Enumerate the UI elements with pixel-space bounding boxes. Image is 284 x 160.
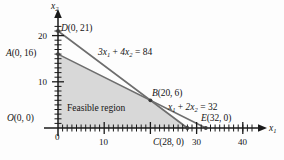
vertex-dot-E [204, 126, 208, 130]
point-label-D: D(0, 21) [61, 24, 92, 34]
vertex-dot-A [56, 52, 60, 56]
x-tick-label-30: 30 [192, 138, 201, 147]
vertex-dot-C [186, 126, 190, 130]
point-label-C: C(28, 0) [153, 138, 184, 148]
point-label-O: O(0, 0) [7, 114, 34, 124]
vertex-dot-B [149, 98, 153, 102]
point-label-E: E(32, 0) [201, 114, 231, 124]
x-tick-label-10: 10 [99, 138, 108, 147]
vertex-dot-D [56, 29, 60, 33]
x-tick-label-40: 40 [238, 138, 247, 147]
linear-programming-figure: x2 x1 D(0, 21) A(0, 16) B(20, 6) O(0, 0)… [0, 0, 284, 160]
x-tick-label-0: 0 [55, 133, 60, 142]
point-label-B: B(20, 6) [152, 89, 182, 99]
constraint-equation-2-label: x1 + 2x2 = 32 [168, 103, 217, 113]
y-axis-label: x2 [51, 2, 58, 12]
x-axis-arrowhead [258, 124, 267, 132]
y-tick-label-10: 10 [38, 78, 47, 87]
feasible-region-label: Feasible region [67, 104, 125, 114]
x-axis-label: x1 [269, 124, 276, 134]
constraint-equation-1-label: 3x1 + 4x2 = 84 [98, 48, 152, 58]
y-tick-label-20: 20 [38, 32, 47, 41]
point-label-A: A(0, 16) [6, 49, 36, 59]
